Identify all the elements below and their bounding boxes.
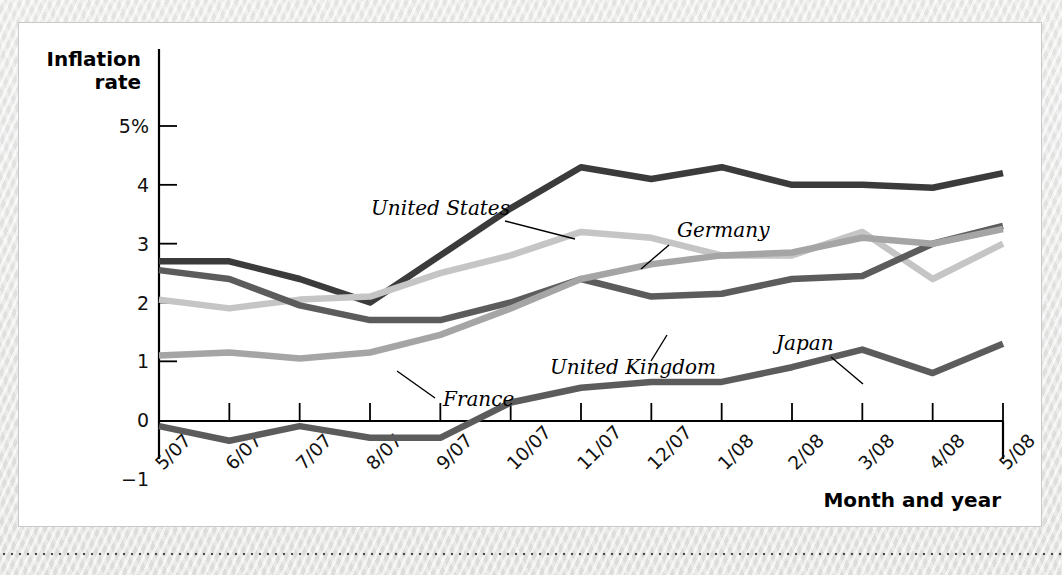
y-axis-title-line2: rate xyxy=(95,70,141,94)
y-tick-label: 0 xyxy=(137,409,149,431)
series-label-united-states: United States xyxy=(371,196,510,220)
y-axis-tick-labels: 5%43210−1 xyxy=(119,115,149,490)
x-tick-label: 1/08 xyxy=(714,430,758,474)
y-tick-label: 4 xyxy=(137,174,149,196)
inflation-rate-line-chart: Inflation rate 5%43210−1 5/076/077/078/0… xyxy=(19,23,1041,526)
x-axis-title: Month and year xyxy=(823,488,1001,512)
x-tick-label: 4/08 xyxy=(925,430,969,474)
x-tick-label: 5/08 xyxy=(995,430,1039,474)
x-tick-label: 10/07 xyxy=(503,421,556,474)
y-tick-label: 5% xyxy=(119,115,149,137)
x-tick-label: 3/08 xyxy=(854,430,898,474)
series-annotations: United StatesGermanyUnited KingdomFrance… xyxy=(371,196,863,411)
series-line-france xyxy=(159,229,1003,358)
y-axis-ticks xyxy=(159,126,177,361)
series-label-japan: Japan xyxy=(772,331,834,355)
x-tick-label: 11/07 xyxy=(573,421,626,474)
x-tick-label: 2/08 xyxy=(784,430,828,474)
y-tick-label: 2 xyxy=(137,292,149,314)
leader-line xyxy=(505,221,575,239)
series-label-germany: Germany xyxy=(677,218,770,242)
y-tick-label: 3 xyxy=(137,233,149,255)
leader-line xyxy=(831,357,863,384)
y-tick-label: 1 xyxy=(137,350,149,372)
y-axis-title-line1: Inflation xyxy=(47,47,141,71)
dotted-rule-divider xyxy=(0,551,1062,557)
x-axis-ticks xyxy=(229,403,1003,421)
leader-line xyxy=(397,371,435,398)
series-label-france: France xyxy=(442,387,514,411)
x-tick-label: 7/07 xyxy=(292,430,336,474)
x-tick-label: 5/07 xyxy=(151,430,195,474)
x-tick-label: 12/07 xyxy=(643,421,696,474)
series-lines xyxy=(159,167,1003,441)
chart-figure: Inflation rate 5%43210−1 5/076/077/078/0… xyxy=(18,22,1042,527)
series-label-united-kingdom: United Kingdom xyxy=(550,355,716,379)
y-tick-label: −1 xyxy=(121,468,149,490)
